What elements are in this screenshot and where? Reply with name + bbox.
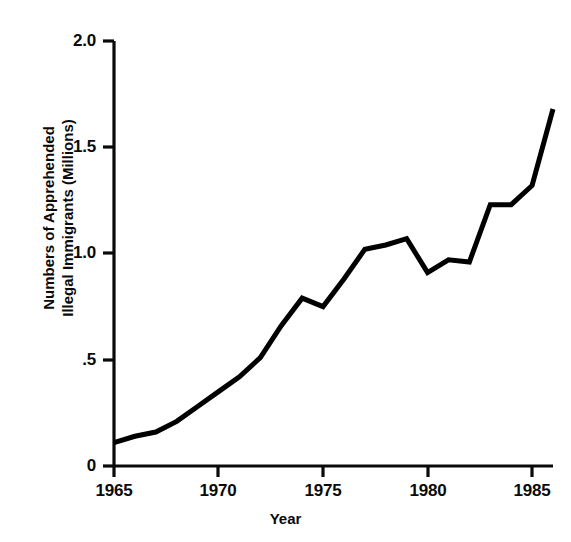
- y-axis-title: Numbers of Apprehended Illegal Immigrant…: [36, 68, 80, 368]
- xtick-label-1975: 1975: [283, 481, 363, 501]
- y-axis-title-line-1: Numbers of Apprehended: [39, 126, 58, 310]
- xtick-label-1980: 1980: [388, 481, 468, 501]
- xtick-label-1970: 1970: [178, 481, 258, 501]
- y-axis-ticks: [103, 41, 114, 466]
- x-axis-ticks: [114, 466, 532, 477]
- x-axis-title: Year: [0, 510, 571, 527]
- y-axis-title-line-2: Illegal Immigrants (Millions): [58, 119, 77, 317]
- xtick-label-1985: 1985: [492, 481, 571, 501]
- ytick-label-2-0: 2.0: [40, 31, 96, 51]
- xtick-label-1965: 1965: [74, 481, 154, 501]
- chart-figure: 2.0 1.5 1.0 .5 0 1965 1970 1975 1980 198…: [0, 0, 571, 542]
- data-series-line: [114, 109, 553, 443]
- ytick-label-0: 0: [40, 456, 96, 476]
